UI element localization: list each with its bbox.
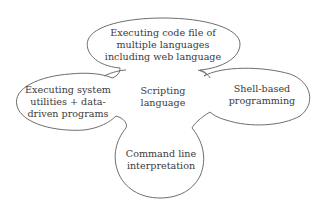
petal-top-line-2: multiple languages	[105, 39, 221, 51]
petal-left-line-3: driven programs	[25, 108, 111, 120]
petal-bottom-label: Command line interpretation	[126, 148, 196, 172]
petal-left-label: Executing system utilities + data- drive…	[25, 84, 111, 120]
petal-right-line-1: Shell-based	[229, 83, 296, 95]
center-label: Scripting language	[141, 85, 186, 109]
petal-left-line-1: Executing system	[25, 84, 111, 96]
petal-left-line-2: utilities + data-	[25, 96, 111, 108]
petal-bottom-line-1: Command line	[126, 148, 196, 160]
petal-bottom-line-2: interpretation	[126, 160, 196, 172]
scripting-language-diagram: Executing code file of multiple language…	[0, 0, 325, 210]
center-line-2: language	[141, 97, 186, 109]
petal-top-line-1: Executing code file of	[105, 27, 221, 39]
petal-right-line-2: programming	[229, 95, 296, 107]
petal-top-line-3: including web language	[105, 51, 221, 63]
petal-right-label: Shell-based programming	[229, 83, 296, 107]
petal-top-label: Executing code file of multiple language…	[105, 27, 221, 63]
center-line-1: Scripting	[141, 85, 186, 97]
